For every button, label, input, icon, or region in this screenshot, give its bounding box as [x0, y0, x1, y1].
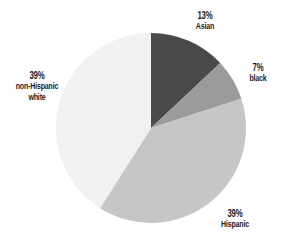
label-black-pct: 7% — [245, 62, 272, 73]
label-non-hispanic-white: 39% non-Hispanic white — [12, 70, 62, 103]
label-hispanic-pct: 39% — [217, 208, 253, 219]
label-white-name-line2: white — [12, 92, 62, 103]
label-white-name-line1: non-Hispanic — [12, 81, 62, 92]
label-hispanic-name: Hispanic — [217, 219, 253, 230]
label-white-pct: 39% — [12, 70, 62, 81]
label-black-name: black — [245, 73, 272, 84]
label-hispanic: 39% Hispanic — [217, 208, 253, 230]
label-asian-name: Asian — [190, 21, 220, 32]
label-asian-pct: 13% — [190, 10, 220, 21]
label-black: 7% black — [245, 62, 272, 84]
pie-chart: 13% Asian 7% black 39% Hispanic 39% non-… — [0, 0, 282, 250]
label-asian: 13% Asian — [190, 10, 220, 32]
